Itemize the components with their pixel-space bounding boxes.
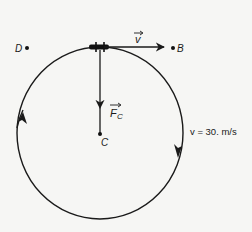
circular-motion-diagram: v F C D B C v = 30. m/s <box>0 0 252 232</box>
svg-text:C: C <box>117 112 123 121</box>
point-b-dot <box>171 46 175 50</box>
speed-label: v = 30. m/s <box>190 126 237 137</box>
point-c-dot <box>98 132 102 136</box>
point-d-dot <box>25 46 29 50</box>
svg-text:D: D <box>15 43 22 54</box>
svg-text:C: C <box>101 137 109 148</box>
svg-text:B: B <box>177 43 184 54</box>
centripetal-force-label: F C <box>110 103 123 121</box>
point-b: B <box>171 43 184 54</box>
point-c: C <box>98 132 109 148</box>
point-d: D <box>15 43 29 54</box>
velocity-label: v <box>134 31 143 45</box>
